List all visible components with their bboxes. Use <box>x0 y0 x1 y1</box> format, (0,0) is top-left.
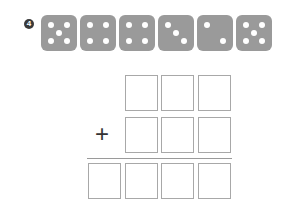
pip <box>142 38 148 44</box>
die-face-4 <box>80 15 116 51</box>
plus-sign: + <box>95 122 109 146</box>
pip <box>204 22 210 28</box>
pip <box>126 38 132 44</box>
die-face-2 <box>197 15 233 51</box>
answer-box[interactable] <box>161 117 194 153</box>
die-face-5 <box>41 15 77 51</box>
answer-box[interactable] <box>125 117 158 153</box>
pip <box>48 22 54 28</box>
sum-line <box>87 158 232 159</box>
pip <box>103 22 109 28</box>
pip <box>142 22 148 28</box>
pip <box>87 22 93 28</box>
answer-box[interactable] <box>161 75 194 111</box>
pip <box>259 38 265 44</box>
dice-row <box>41 15 272 51</box>
pip <box>243 22 249 28</box>
die-face-5 <box>236 15 272 51</box>
answer-box[interactable] <box>88 163 121 199</box>
pip <box>64 38 70 44</box>
pip <box>56 30 62 36</box>
answer-box[interactable] <box>198 163 231 199</box>
problem-number-badge: 4 <box>24 19 34 29</box>
pip <box>103 38 109 44</box>
pip <box>173 30 179 36</box>
answer-box[interactable] <box>125 75 158 111</box>
answer-box[interactable] <box>125 163 158 199</box>
pip <box>48 38 54 44</box>
pip <box>259 22 265 28</box>
answer-box[interactable] <box>198 117 231 153</box>
pip <box>87 38 93 44</box>
die-face-3 <box>158 15 194 51</box>
die-face-4 <box>119 15 155 51</box>
pip <box>64 22 70 28</box>
pip <box>126 22 132 28</box>
pip <box>181 38 187 44</box>
answer-box[interactable] <box>161 163 194 199</box>
pip <box>220 38 226 44</box>
pip <box>251 30 257 36</box>
answer-box[interactable] <box>198 75 231 111</box>
pip <box>243 38 249 44</box>
pip <box>165 22 171 28</box>
